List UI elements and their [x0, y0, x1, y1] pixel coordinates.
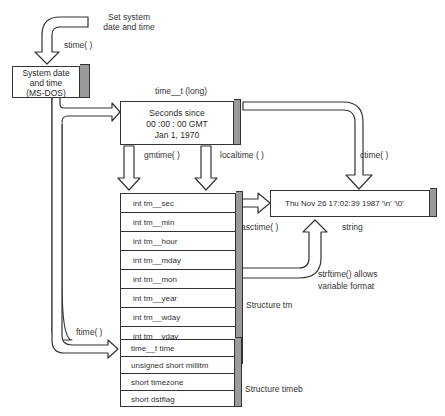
- string-box: Thu Nov 26 17:02:39 1987 '\n' '\0': [270, 190, 430, 217]
- timeb-field-millitm: unsigned short millitm: [121, 357, 234, 374]
- gmtime-label: gmtime( ): [144, 150, 180, 160]
- ftime-arrow: [52, 98, 118, 358]
- time-t-shade: [234, 99, 241, 145]
- localtime-label: localtime ( ): [220, 150, 264, 160]
- ctime-label: ctime( ): [360, 150, 388, 160]
- system-box-shade: [80, 64, 90, 98]
- timeb-field-dstflag: short dstflag: [121, 391, 234, 408]
- tm-field-wday: int tm__wday: [121, 308, 235, 327]
- string-caption: string: [342, 222, 363, 232]
- structure-tm-caption: Structure tm: [246, 300, 292, 310]
- tm-field-mon: int tm__mon: [121, 270, 235, 289]
- string-value: Thu Nov 26 17:02:39 1987 '\n' '\0': [285, 199, 404, 208]
- gmtime-arrow: [118, 146, 140, 190]
- system-box-line-3: (MS-DOS): [13, 88, 79, 98]
- structure-timeb-box: time__t time unsigned short millitm shor…: [120, 339, 235, 407]
- time-t-box: Seconds since 00 :00 : 00 GMT Jan 1, 197…: [120, 101, 234, 145]
- time-t-label: time__t (long): [155, 86, 207, 96]
- time-t-line-2: 00 :00 : 00 GMT: [121, 119, 233, 130]
- tm-field-hour: int tm__hour: [121, 232, 235, 251]
- string-box-shade: [430, 188, 437, 217]
- set-system-line-2: date and time: [94, 22, 164, 32]
- time-t-line-3: Jan 1, 1970: [121, 130, 233, 141]
- timeb-field-time: time__t time: [121, 340, 234, 357]
- ctime-arrow: [243, 102, 372, 189]
- tm-field-year: int tm__year: [121, 289, 235, 308]
- tm-field-min: int tm__min: [121, 213, 235, 232]
- stime-label: stime( ): [64, 40, 92, 50]
- timeb-field-timezone: short timezone: [121, 374, 234, 391]
- tm-field-mday: int tm__mday: [121, 251, 235, 270]
- ftime-label: ftime( ): [76, 327, 102, 337]
- time-t-line-1: Seconds since: [121, 108, 233, 119]
- tm-field-sec: int tm__sec: [121, 194, 235, 213]
- system-box-line-1: System date: [13, 68, 79, 78]
- structure-timeb-caption: Structure timeb: [245, 384, 303, 394]
- localtime-arrow: [195, 146, 217, 190]
- strftime-line-1: strftime() allows: [318, 268, 378, 280]
- asctime-label: asctime( ): [241, 222, 278, 232]
- strftime-line-2: variable format: [318, 280, 378, 292]
- structure-timeb-shade: [235, 337, 242, 407]
- system-date-time-box: System date and time (MS-DOS): [12, 66, 80, 98]
- set-system-line-1: Set system: [94, 12, 164, 22]
- strftime-label: strftime() allows variable format: [318, 268, 378, 292]
- set-system-label: Set system date and time: [94, 12, 164, 32]
- system-box-line-2: and time: [13, 78, 79, 88]
